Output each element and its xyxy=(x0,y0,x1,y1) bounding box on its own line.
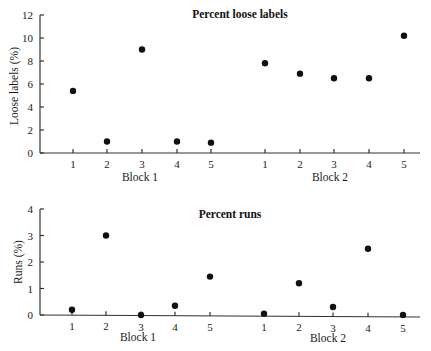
y-tick-label: 0 xyxy=(28,309,34,321)
x-tick-label: 2 xyxy=(104,158,110,170)
x-tick-label: 2 xyxy=(297,158,303,170)
x-tick-label: 4 xyxy=(174,158,180,170)
x-tick-label: 2 xyxy=(103,320,109,332)
data-point xyxy=(104,138,110,144)
y-axis-title: Runs (%) xyxy=(12,240,25,284)
data-point xyxy=(366,75,372,81)
x-tick-label: 3 xyxy=(331,158,337,170)
chart-figure: Percent loose labels Loose labels (%) 02… xyxy=(0,0,431,351)
x-ticks: 1234512345 xyxy=(70,149,407,170)
x-tick-label: 3 xyxy=(139,158,145,170)
chart-runs: Percent runs Runs (%) 01234 1234512345 B… xyxy=(12,203,420,344)
block-2-label: Block 2 xyxy=(312,171,348,183)
data-point xyxy=(174,138,180,144)
chart-title: Percent runs xyxy=(199,208,262,220)
data-point xyxy=(69,307,75,313)
y-axis-title: Loose labels (%) xyxy=(8,47,21,125)
x-tick-label: 5 xyxy=(207,321,213,333)
x-axis xyxy=(40,315,420,317)
data-point xyxy=(331,75,337,81)
x-tick-label: 2 xyxy=(296,321,302,333)
data-point xyxy=(401,33,407,39)
data-point xyxy=(261,310,267,316)
data-point xyxy=(330,304,336,310)
y-tick-label: 0 xyxy=(28,147,34,159)
y-tick-label: 10 xyxy=(22,32,34,44)
data-points xyxy=(70,33,407,146)
y-tick-label: 3 xyxy=(28,230,34,242)
x-tick-label: 1 xyxy=(69,320,75,332)
data-point xyxy=(400,312,406,318)
data-point xyxy=(365,246,371,252)
data-point xyxy=(70,88,76,94)
data-point xyxy=(207,273,213,279)
block-2-label: Block 2 xyxy=(310,332,346,344)
block-1-label: Block 1 xyxy=(122,171,158,183)
x-tick-label: 1 xyxy=(261,321,267,333)
y-ticks: 01234 xyxy=(28,203,45,321)
y-tick-label: 6 xyxy=(28,78,34,90)
y-tick-label: 4 xyxy=(28,101,34,113)
x-tick-label: 5 xyxy=(208,158,214,170)
y-tick-label: 2 xyxy=(28,256,34,268)
x-tick-label: 4 xyxy=(365,322,371,334)
data-points xyxy=(69,232,406,318)
y-tick-label: 12 xyxy=(22,9,33,21)
x-tick-label: 1 xyxy=(262,158,268,170)
x-tick-label: 4 xyxy=(366,158,372,170)
x-tick-label: 1 xyxy=(70,158,76,170)
y-tick-label: 4 xyxy=(28,203,34,215)
y-ticks: 024681012 xyxy=(22,9,44,159)
data-point xyxy=(296,280,302,286)
x-tick-label: 5 xyxy=(400,322,406,334)
data-point xyxy=(262,60,268,66)
x-tick-label: 5 xyxy=(401,158,407,170)
data-point xyxy=(103,232,109,238)
y-tick-label: 8 xyxy=(28,55,34,67)
data-point xyxy=(139,46,145,52)
chart-loose-labels: Percent loose labels Loose labels (%) 02… xyxy=(8,8,420,183)
data-point xyxy=(138,312,144,318)
y-tick-label: 2 xyxy=(28,124,34,136)
data-point xyxy=(297,70,303,76)
block-1-label: Block 1 xyxy=(120,331,156,343)
data-point xyxy=(172,303,178,309)
chart-title: Percent loose labels xyxy=(192,8,288,20)
x-tick-label: 4 xyxy=(172,321,178,333)
y-tick-label: 1 xyxy=(28,283,34,295)
data-point xyxy=(208,139,214,145)
